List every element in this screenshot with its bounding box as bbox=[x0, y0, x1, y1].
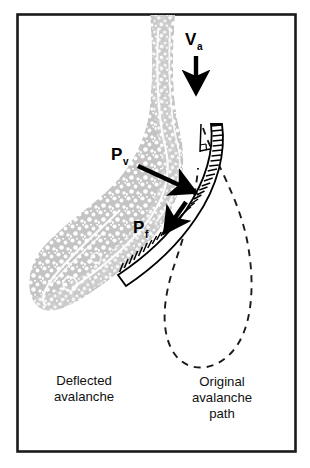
caption-deflected-avalanche: Deflected avalanche bbox=[54, 373, 114, 404]
avalanche-deflection-diagram: V a P v P f Deflected avalanche Original… bbox=[0, 0, 310, 468]
caption-right-line-3: path bbox=[209, 406, 235, 421]
velocity-symbol: V bbox=[185, 30, 197, 49]
caption-left-line-1: Deflected bbox=[56, 373, 112, 388]
velocity-subscript: a bbox=[197, 41, 203, 52]
caption-right-line-1: Original bbox=[199, 374, 245, 389]
normal-pressure-symbol: P bbox=[111, 145, 122, 164]
figure-container: V a P v P f Deflected avalanche Original… bbox=[0, 0, 310, 468]
friction-pressure-symbol: P bbox=[133, 218, 144, 237]
caption-right-line-2: avalanche bbox=[192, 390, 252, 405]
normal-pressure-subscript: v bbox=[123, 156, 129, 167]
caption-left-line-2: avalanche bbox=[54, 389, 114, 404]
